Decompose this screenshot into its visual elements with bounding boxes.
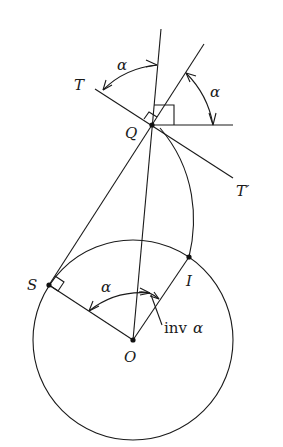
- arrow-head-right-bottom: [209, 113, 216, 125]
- point-Q: [149, 122, 154, 127]
- point-I: [186, 254, 191, 259]
- involute-diagram: T T′ Q S I O α α α inv α: [0, 0, 283, 447]
- radius-O-S: [49, 285, 133, 340]
- right-angle-Q-square: [154, 105, 174, 125]
- involute-curve: [160, 128, 194, 257]
- label-alpha-top: α: [117, 56, 127, 74]
- alpha-arc-top: [103, 65, 157, 90]
- label-O: O: [124, 348, 136, 366]
- line-S-Q: [49, 44, 204, 285]
- point-O: [130, 337, 135, 342]
- right-angle-S: [49, 276, 64, 291]
- label-S: S: [27, 276, 37, 294]
- label-alpha-center: α: [101, 278, 111, 296]
- label-T: T: [74, 76, 85, 94]
- label-inv-prefix: inv: [164, 319, 187, 337]
- label-Q: Q: [125, 124, 137, 142]
- label-I: I: [185, 272, 193, 290]
- label-T-prime: T′: [236, 182, 250, 200]
- label-inv-alpha: α: [193, 319, 203, 337]
- right-angle-Q-tilted: [144, 112, 157, 119]
- label-alpha-right: α: [210, 83, 220, 101]
- point-S: [46, 282, 51, 287]
